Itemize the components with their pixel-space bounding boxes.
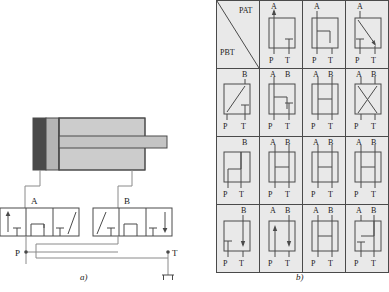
symbol-cell-r4c4: A B P T <box>346 205 389 273</box>
symbol-cell-r2c3: A B P T <box>303 69 346 137</box>
symbol-cell-r2c1: B P T <box>217 69 260 137</box>
table-row: B P T A B P T <box>217 69 389 137</box>
svg-text:P: P <box>268 190 273 199</box>
table-header-cell: PAT PBT <box>217 1 260 69</box>
tank-symbol <box>162 275 174 280</box>
svg-text:A: A <box>270 138 276 147</box>
symbol-cell-r4c2: A B P T <box>260 205 303 273</box>
svg-text:B: B <box>285 70 290 79</box>
label-port-b: B <box>124 196 130 206</box>
svg-text:P: P <box>311 259 316 268</box>
svg-text:PBT: PBT <box>220 48 235 57</box>
svg-text:P: P <box>355 56 360 65</box>
svg-text:P: P <box>223 259 228 268</box>
svg-text:B: B <box>328 70 333 79</box>
symbol-cell-r3c3: A B P T <box>303 137 346 205</box>
svg-text:B: B <box>371 70 376 79</box>
svg-text:B: B <box>241 206 246 215</box>
symbol-cell-r4c1: B P T <box>217 205 260 273</box>
svg-text:T: T <box>285 122 290 131</box>
svg-text:A: A <box>356 206 362 215</box>
svg-text:A: A <box>270 70 276 79</box>
svg-text:B: B <box>242 138 247 147</box>
valve-left <box>0 208 79 236</box>
symbol-cell-r2c4: A B P T <box>346 69 389 137</box>
symbol-cell-r3c2: A B P T <box>260 137 303 205</box>
svg-text:A: A <box>356 70 362 79</box>
svg-text:T: T <box>371 190 376 199</box>
svg-text:A: A <box>357 2 363 11</box>
svg-text:P: P <box>354 190 359 199</box>
svg-text:A: A <box>313 206 319 215</box>
label-port-t: T <box>172 248 178 258</box>
svg-text:P: P <box>354 122 359 131</box>
svg-text:T: T <box>371 56 376 65</box>
svg-text:T: T <box>328 190 333 199</box>
svg-text:T: T <box>239 259 244 268</box>
svg-text:A: A <box>314 2 320 11</box>
symbol-cell-r4c3: A B P T <box>303 205 346 273</box>
svg-text:B: B <box>371 138 376 147</box>
svg-text:B: B <box>328 206 333 215</box>
symbol-cell-r1c3: A P T <box>303 1 346 69</box>
svg-text:P: P <box>311 190 316 199</box>
svg-text:A: A <box>356 138 362 147</box>
svg-text:P: P <box>269 56 274 65</box>
svg-text:T: T <box>285 190 290 199</box>
svg-text:T: T <box>328 122 333 131</box>
svg-text:T: T <box>239 190 244 199</box>
svg-text:T: T <box>285 259 290 268</box>
symbol-cell-r1c2: A P T <box>260 1 303 69</box>
svg-text:P: P <box>223 122 228 131</box>
svg-text:T: T <box>328 259 333 268</box>
svg-text:P: P <box>223 190 228 199</box>
svg-text:T: T <box>371 259 376 268</box>
symbol-cell-r2c2: A B P T <box>260 69 303 137</box>
label-port-a: A <box>31 196 38 206</box>
svg-text:T: T <box>328 56 333 65</box>
symbol-cell-r1c4: A P T <box>346 1 389 69</box>
svg-text:P: P <box>312 56 317 65</box>
svg-text:T: T <box>241 122 246 131</box>
svg-text:A: A <box>270 206 276 215</box>
cylinder-symbol <box>33 118 167 170</box>
table-row: B P T A B P T <box>217 137 389 205</box>
hydraulic-circuit-diagram: A B P T <box>0 0 215 292</box>
supply-return-lines <box>26 236 168 275</box>
symbol-cell-r3c4: A B P T <box>346 137 389 205</box>
svg-text:A: A <box>313 70 319 79</box>
svg-text:P: P <box>268 259 273 268</box>
label-port-p: P <box>15 248 20 258</box>
svg-text:PAT: PAT <box>239 6 253 15</box>
svg-text:T: T <box>285 56 290 65</box>
svg-text:A: A <box>313 138 319 147</box>
svg-text:A: A <box>271 2 277 11</box>
svg-text:B: B <box>371 206 376 215</box>
circuit-svg: A B P T <box>0 0 215 292</box>
caption-b: b) <box>296 272 304 282</box>
svg-text:B: B <box>328 138 333 147</box>
symbol-cell-r3c1: B P T <box>217 137 260 205</box>
svg-text:B: B <box>285 206 290 215</box>
svg-text:B: B <box>285 138 290 147</box>
svg-text:P: P <box>268 122 273 131</box>
svg-text:P: P <box>354 259 359 268</box>
svg-text:B: B <box>242 70 247 79</box>
table-row: PAT PBT A P T <box>217 1 389 69</box>
valve-symbol-table: PAT PBT A P T <box>216 0 385 272</box>
caption-a: a) <box>80 272 88 282</box>
valve-right <box>93 208 172 236</box>
table-row: B P T A B P T <box>217 205 389 273</box>
cylinder-port-lines <box>25 170 132 208</box>
svg-text:P: P <box>311 122 316 131</box>
svg-text:T: T <box>371 122 376 131</box>
